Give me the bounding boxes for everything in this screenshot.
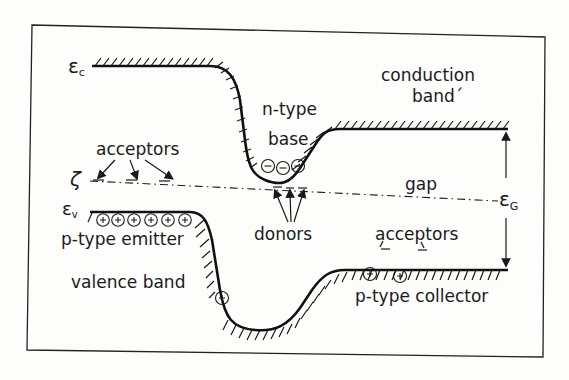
conduction-band-label-2: band´: [412, 86, 463, 106]
band-diagram: εc conduction band´ n-type base acceptor…: [0, 0, 569, 380]
conduction-band-label-1: conduction: [381, 65, 475, 85]
donor-levels: [273, 187, 307, 222]
fermi-level-symbol: ζ: [69, 167, 82, 191]
valence-band-label: valence band: [71, 272, 185, 292]
valence-edge-symbol: εv: [62, 198, 78, 220]
gap-label: gap: [405, 174, 437, 194]
p-type-collector-label: p-type collector: [355, 286, 488, 306]
gap-energy-symbol: εG: [499, 187, 518, 213]
acceptor-levels-left: [93, 160, 170, 181]
emitter-holes: [97, 214, 192, 227]
n-type-label: n-type: [262, 99, 317, 119]
acceptors-right-label: acceptors: [375, 224, 458, 244]
p-type-emitter-label: p-type emitter: [61, 229, 184, 249]
acceptors-left-label: acceptors: [96, 139, 179, 159]
base-label: base: [268, 129, 309, 149]
conduction-edge-symbol: εc: [68, 54, 85, 79]
donors-label: donors: [254, 224, 312, 244]
